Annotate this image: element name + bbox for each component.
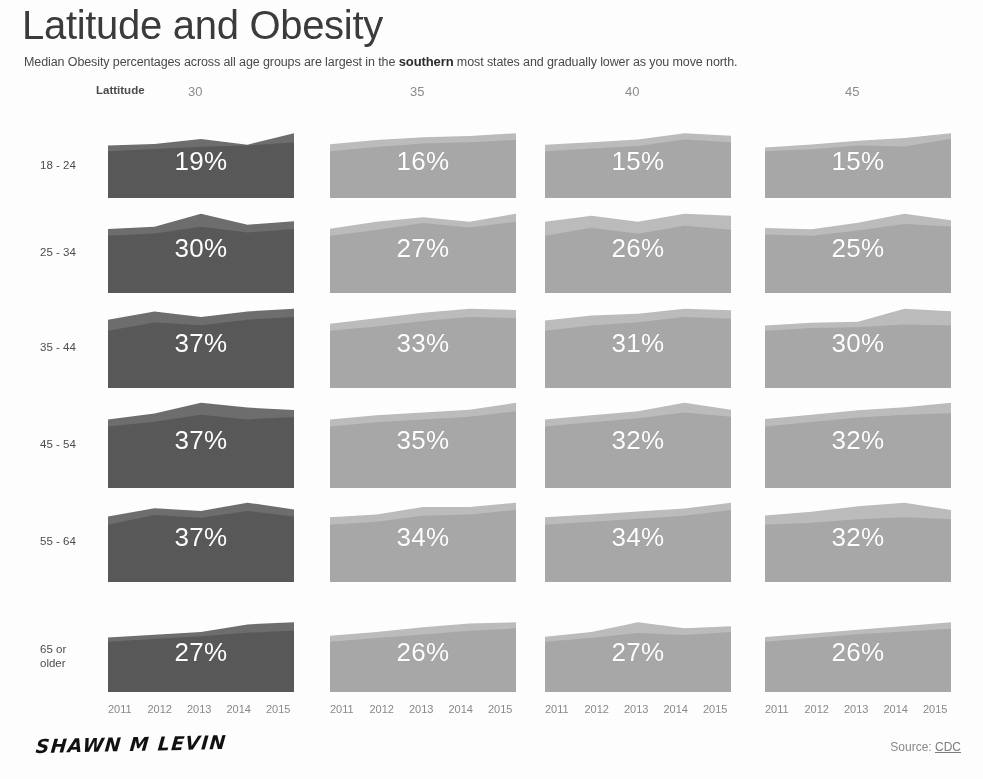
source-label: Source:	[890, 740, 931, 754]
year-tick-2013: 2013	[409, 703, 433, 715]
source-citation: Source: CDC	[890, 740, 961, 754]
year-tick-2011: 2011	[765, 703, 789, 715]
median-band-area	[108, 143, 294, 198]
year-tick-2012: 2012	[805, 703, 829, 715]
year-tick-2014: 2014	[884, 703, 908, 715]
median-band-area	[108, 227, 294, 293]
year-tick-2014: 2014	[449, 703, 473, 715]
row-label-65-or-older: 65 or older	[40, 642, 104, 670]
year-tick-2015: 2015	[488, 703, 512, 715]
year-axis-lat-45: 20112012201320142015	[765, 703, 951, 719]
area-panel-25---34-lat-40[interactable]: 26%	[545, 211, 731, 293]
median-band-area	[108, 317, 294, 388]
area-panel-18---24-lat-30[interactable]: 19%	[108, 131, 294, 198]
year-tick-2013: 2013	[844, 703, 868, 715]
median-band-area	[545, 632, 731, 692]
year-tick-2012: 2012	[370, 703, 394, 715]
row-label-25---34: 25 - 34	[40, 245, 104, 259]
area-panel-35---44-lat-30[interactable]: 37%	[108, 306, 294, 388]
year-tick-2015: 2015	[266, 703, 290, 715]
year-axis-lat-35: 20112012201320142015	[330, 703, 516, 719]
area-panel-25---34-lat-30[interactable]: 30%	[108, 211, 294, 293]
year-tick-2013: 2013	[624, 703, 648, 715]
area-panel-55---64-lat-35[interactable]: 34%	[330, 500, 516, 582]
year-tick-2014: 2014	[227, 703, 251, 715]
median-band-area	[545, 226, 731, 293]
row-label-45---54: 45 - 54	[40, 437, 104, 451]
small-multiples-grid: 18 - 2419%16%15%15%25 - 3430%27%26%25%35…	[0, 0, 983, 779]
area-panel-35---44-lat-35[interactable]: 33%	[330, 306, 516, 388]
median-band-area	[108, 415, 294, 488]
area-panel-35---44-lat-40[interactable]: 31%	[545, 306, 731, 388]
year-tick-2012: 2012	[585, 703, 609, 715]
area-panel-55---64-lat-45[interactable]: 32%	[765, 500, 951, 582]
median-band-area	[108, 511, 294, 582]
area-panel-35---44-lat-45[interactable]: 30%	[765, 306, 951, 388]
year-tick-2015: 2015	[703, 703, 727, 715]
year-tick-2015: 2015	[923, 703, 947, 715]
area-panel-18---24-lat-40[interactable]: 15%	[545, 131, 731, 198]
year-tick-2011: 2011	[545, 703, 569, 715]
area-panel-65-or-older-lat-35[interactable]: 26%	[330, 620, 516, 692]
area-panel-65-or-older-lat-40[interactable]: 27%	[545, 620, 731, 692]
area-panel-25---34-lat-45[interactable]: 25%	[765, 211, 951, 293]
area-panel-65-or-older-lat-45[interactable]: 26%	[765, 620, 951, 692]
area-panel-18---24-lat-35[interactable]: 16%	[330, 131, 516, 198]
year-tick-2012: 2012	[148, 703, 172, 715]
area-panel-45---54-lat-30[interactable]: 37%	[108, 400, 294, 488]
area-panel-25---34-lat-35[interactable]: 27%	[330, 211, 516, 293]
author-signature: SHAWN M LEVIN	[35, 731, 228, 757]
median-band-area	[765, 325, 951, 388]
median-band-area	[330, 222, 516, 293]
area-panel-18---24-lat-45[interactable]: 15%	[765, 131, 951, 198]
year-tick-2014: 2014	[664, 703, 688, 715]
area-panel-45---54-lat-45[interactable]: 32%	[765, 400, 951, 488]
year-axis-lat-40: 20112012201320142015	[545, 703, 731, 719]
row-label-55---64: 55 - 64	[40, 534, 104, 548]
median-band-area	[330, 140, 516, 198]
year-tick-2011: 2011	[330, 703, 354, 715]
row-label-35---44: 35 - 44	[40, 340, 104, 354]
median-band-area	[545, 317, 731, 388]
year-tick-2013: 2013	[187, 703, 211, 715]
year-axis-lat-30: 20112012201320142015	[108, 703, 294, 719]
area-panel-45---54-lat-40[interactable]: 32%	[545, 400, 731, 488]
row-label-18---24: 18 - 24	[40, 158, 104, 172]
area-panel-55---64-lat-30[interactable]: 37%	[108, 500, 294, 582]
area-panel-65-or-older-lat-30[interactable]: 27%	[108, 620, 294, 692]
source-link-cdc[interactable]: CDC	[935, 740, 961, 754]
year-tick-2011: 2011	[108, 703, 132, 715]
area-panel-45---54-lat-35[interactable]: 35%	[330, 400, 516, 488]
median-band-area	[765, 517, 951, 582]
area-panel-55---64-lat-40[interactable]: 34%	[545, 500, 731, 582]
median-band-area	[765, 413, 951, 488]
